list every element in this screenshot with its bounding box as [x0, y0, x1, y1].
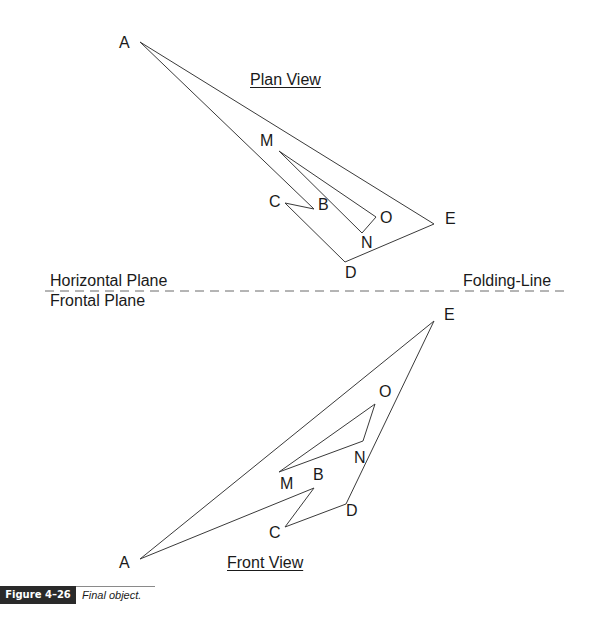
- front-vertex-label-o: O: [379, 384, 391, 400]
- folding-line-label: Folding-Line: [463, 273, 551, 289]
- plan-vertex-label-n: N: [361, 235, 373, 251]
- front-view-outer-outline: [140, 321, 434, 559]
- front-vertex-label-a: A: [119, 555, 130, 571]
- plan-vertex-label-o: O: [380, 210, 392, 226]
- front-vertex-label-m: M: [280, 476, 293, 492]
- caption-rule: [76, 586, 155, 587]
- figure-caption: Final object.: [82, 588, 141, 602]
- frontal-plane-label: Frontal Plane: [50, 293, 145, 309]
- plan-view-inner-outline: [279, 151, 376, 233]
- front-vertex-label-n: N: [354, 450, 366, 466]
- orthographic-projection-diagram: [0, 0, 596, 621]
- plan-vertex-label-c: C: [269, 194, 281, 210]
- plan-vertex-label-e: E: [445, 211, 456, 227]
- front-vertex-label-b: B: [313, 467, 324, 483]
- plan-vertex-label-m: M: [260, 133, 273, 149]
- front-vertex-label-d: D: [346, 503, 358, 519]
- front-vertex-label-e: E: [444, 307, 455, 323]
- front-vertex-label-c: C: [269, 525, 281, 541]
- plan-view-title: Plan View: [250, 72, 321, 88]
- plan-vertex-label-b: B: [318, 197, 329, 213]
- horizontal-plane-label: Horizontal Plane: [50, 273, 167, 289]
- figure-number-badge: Figure 4–26: [0, 586, 76, 604]
- plan-vertex-label-a: A: [119, 35, 130, 51]
- plan-vertex-label-d: D: [345, 265, 357, 281]
- front-view-title: Front View: [227, 555, 303, 571]
